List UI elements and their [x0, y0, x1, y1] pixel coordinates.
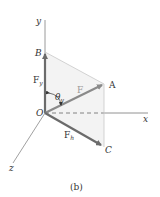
figure-caption: (b) — [70, 182, 83, 192]
vector-Fh-label: Fh — [64, 130, 74, 141]
vector-decomposition-diagram: y x z B A C O Fy F Fh θy (b) — [0, 0, 160, 197]
y-axis-label: y — [35, 16, 42, 26]
point-C-label: C — [105, 145, 112, 155]
z-axis-label: z — [8, 163, 14, 173]
z-axis — [13, 113, 45, 163]
point-B-label: B — [34, 48, 42, 58]
point-A-label: A — [108, 80, 116, 90]
x-axis-label: x — [143, 114, 148, 124]
vector-F-label: F — [77, 85, 83, 95]
vector-Fy-label: Fy — [33, 75, 43, 87]
origin-label: O — [36, 108, 44, 118]
